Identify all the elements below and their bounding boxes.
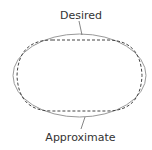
desired-label: Desired	[60, 9, 102, 22]
approximate-label: Approximate	[45, 131, 115, 144]
shape-comparison-diagram: Desired Approximate	[0, 0, 152, 150]
desired-ellipse	[13, 34, 146, 117]
approximate-leader-line	[81, 117, 85, 129]
approximate-dashed-shape	[17, 40, 142, 111]
desired-leader-line	[79, 21, 82, 35]
